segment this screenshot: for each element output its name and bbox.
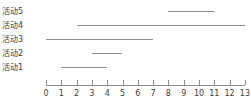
x-tick-8 — [168, 80, 169, 85]
x-tick-label-10: 10 — [194, 89, 204, 98]
x-tick-9 — [184, 80, 185, 85]
x-tick-label-0: 0 — [43, 89, 48, 98]
category-label-activity5: 活动5 — [2, 7, 44, 16]
x-tick-4 — [107, 80, 108, 85]
x-tick-5 — [123, 80, 124, 85]
gantt-bar-activity4 — [77, 25, 245, 26]
x-tick-label-11: 11 — [209, 89, 219, 98]
x-tick-label-2: 2 — [74, 89, 79, 98]
category-label-activity1: 活动1 — [2, 63, 44, 72]
x-tick-label-1: 1 — [59, 89, 64, 98]
gantt-bar-activity1 — [61, 67, 107, 68]
x-axis-line — [46, 85, 245, 86]
category-label-activity3: 活动3 — [2, 35, 44, 44]
x-tick-label-5: 5 — [120, 89, 125, 98]
x-tick-label-8: 8 — [166, 89, 171, 98]
category-label-activity4: 活动4 — [2, 21, 44, 30]
x-tick-12 — [230, 80, 231, 85]
x-tick-7 — [153, 80, 154, 85]
x-tick-11 — [214, 80, 215, 85]
gantt-chart: 活动5 活动4 活动3 活动2 活动1 012345678910111213 — [0, 0, 251, 109]
gantt-bar-activity5 — [168, 11, 214, 12]
x-tick-label-6: 6 — [135, 89, 140, 98]
category-label-activity2: 活动2 — [2, 49, 44, 58]
x-tick-3 — [92, 80, 93, 85]
x-tick-2 — [77, 80, 78, 85]
x-tick-label-3: 3 — [89, 89, 94, 98]
x-tick-label-7: 7 — [151, 89, 156, 98]
gantt-bar-activity3 — [46, 39, 153, 40]
x-tick-10 — [199, 80, 200, 85]
x-tick-0 — [46, 80, 47, 85]
x-tick-label-12: 12 — [225, 89, 235, 98]
x-tick-6 — [138, 80, 139, 85]
x-tick-label-9: 9 — [181, 89, 186, 98]
x-tick-1 — [61, 80, 62, 85]
x-tick-label-13: 13 — [240, 89, 250, 98]
x-tick-label-4: 4 — [105, 89, 110, 98]
gantt-bar-activity2 — [92, 53, 123, 54]
x-tick-13 — [245, 80, 246, 85]
